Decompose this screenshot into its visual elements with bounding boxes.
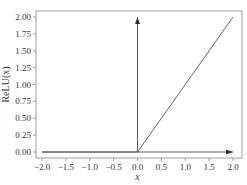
x-tick-label: −1.5 — [58, 162, 75, 172]
x-tick-label: 1.5 — [204, 162, 216, 172]
plot-frame-layer — [36, 11, 242, 158]
x-tick-label: −1.0 — [82, 162, 99, 172]
y-tick-label: 0.00 — [15, 147, 31, 157]
x-tick-label: 1.0 — [180, 162, 192, 172]
y-axis-label: ReLU(x) — [0, 66, 12, 102]
y-tick-label: 0.75 — [15, 96, 31, 106]
y-tick-label: 0.50 — [15, 113, 31, 123]
y-ticks: 0.000.250.500.751.001.251.501.752.00 — [15, 12, 36, 157]
y-tick-label: 1.25 — [15, 63, 31, 73]
y-tick-label: 0.25 — [15, 130, 31, 140]
y-tick-label: 1.75 — [15, 29, 31, 39]
x-tick-label: −2.0 — [34, 162, 51, 172]
x-axis-arrow-head — [226, 150, 233, 155]
y-tick-label: 1.00 — [15, 80, 31, 90]
relu-chart: 0.000.250.500.751.001.251.501.752.00 −2.… — [0, 0, 247, 185]
x-tick-label: 2.0 — [227, 162, 239, 172]
axis-arrows — [42, 17, 233, 155]
x-ticks: −2.0−1.5−1.0−0.50.00.51.01.52.0 — [34, 158, 239, 172]
y-tick-label: 2.00 — [15, 12, 31, 22]
x-axis-label: x — [134, 171, 140, 182]
x-tick-label: 0.5 — [156, 162, 168, 172]
x-tick-label: −0.5 — [105, 162, 122, 172]
y-tick-label: 1.50 — [15, 46, 31, 56]
y-axis-arrow-head — [135, 17, 140, 24]
plot-frame — [36, 11, 242, 158]
